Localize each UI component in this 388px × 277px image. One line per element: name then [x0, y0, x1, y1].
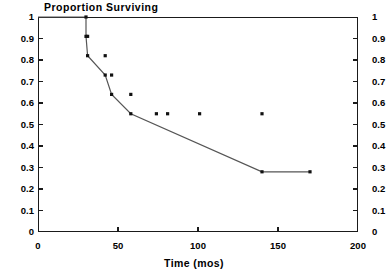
event-marker	[260, 112, 263, 115]
y-tick-mark	[353, 145, 358, 146]
event-marker	[104, 73, 107, 76]
x-axis-label: Time (mos)	[0, 257, 388, 269]
event-marker	[104, 54, 107, 57]
event-marker	[110, 73, 113, 76]
y-tick-mark	[353, 210, 358, 211]
y-tick-mark	[38, 188, 43, 189]
censor-marker	[166, 112, 169, 115]
censor-marker	[198, 112, 201, 115]
survival-curve-layer	[0, 0, 388, 277]
event-marker	[86, 54, 89, 57]
y-tick-mark	[38, 81, 43, 82]
survival-step-line	[38, 17, 310, 172]
y-tick-mark	[38, 59, 43, 60]
event-marker	[84, 15, 87, 18]
y-tick-mark	[353, 124, 358, 125]
y-tick-mark	[38, 210, 43, 211]
y-tick-mark	[353, 81, 358, 82]
y-tick-mark	[353, 59, 358, 60]
event-marker	[129, 112, 132, 115]
event-marker	[110, 93, 113, 96]
censor-marker	[308, 170, 311, 173]
y-tick-mark	[38, 38, 43, 39]
y-tick-mark	[353, 188, 358, 189]
y-tick-mark	[38, 102, 43, 103]
event-marker	[260, 170, 263, 173]
y-tick-mark	[38, 124, 43, 125]
censor-marker	[155, 112, 158, 115]
event-marker	[129, 93, 132, 96]
y-tick-mark	[353, 102, 358, 103]
y-tick-mark	[38, 167, 43, 168]
event-marker	[86, 35, 89, 38]
y-tick-mark	[353, 167, 358, 168]
y-tick-mark	[38, 145, 43, 146]
survival-chart: Proportion Surviving 00.10.20.30.40.50.6…	[0, 0, 388, 277]
y-tick-mark	[353, 38, 358, 39]
